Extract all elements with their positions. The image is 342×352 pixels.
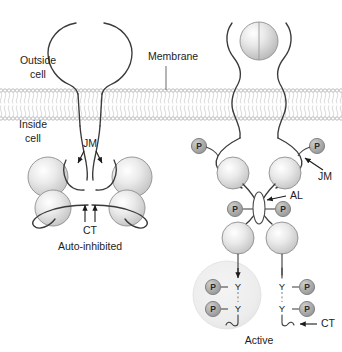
lipid-tail [220,92,222,103]
panel-active: P P [191,22,335,346]
lipid-head-group [39,89,42,92]
lipid-head-group [271,117,274,120]
lipid-tail [244,92,246,103]
lipid-head-group [87,117,90,120]
membrane-inner-leaflet [0,106,342,121]
lipid-tail [104,92,106,103]
lipid-head-group [203,89,206,92]
lipid-tail [228,92,230,103]
lipid-head-group [255,89,258,92]
lipid-head-group [227,117,230,120]
lipid-head-group [3,117,6,120]
lipid-tail [188,92,190,103]
lipid-tail [28,106,30,117]
lipid-head-group [275,117,278,120]
annotation-jm-right: JM [305,158,332,182]
lipid-tail [272,106,274,117]
lipid-tail [308,106,310,117]
lipid-tail [144,92,146,103]
lipid-head-group [179,117,182,120]
phosphate-glyph: P [196,141,202,151]
lipid-tail [332,106,334,117]
lipid-tail [0,106,2,117]
lipid-head-group [207,89,210,92]
lipid-tail [28,92,30,103]
lipid-head-group [23,89,26,92]
lipid-tail [312,106,314,117]
lipid-head-group [259,89,262,92]
lipid-head-group [207,117,210,120]
lipid-tail [116,92,118,103]
lipid-tail [224,106,226,117]
annotation-ct-left: CT [83,205,98,236]
lipid-head-group [263,117,266,120]
lipid-tail [316,92,318,103]
lipid-head-group [247,89,250,92]
lipid-head-group [183,89,186,92]
lipid-head-group [59,117,62,120]
lipid-tail [184,106,186,117]
lipid-head-group [287,89,290,92]
ectodomain-unliganded [48,23,132,94]
lipid-tail [248,92,250,103]
lipid-head-group [155,117,158,120]
lipid-tail [124,106,126,117]
tyrosine-glyph: Y [235,281,242,292]
lipid-head-group [11,117,14,120]
lipid-head-group [239,89,242,92]
lipid-head-group [147,117,150,120]
lipid-tail [328,106,330,117]
lipid-tail [48,106,50,117]
lipid-tail [192,92,194,103]
kinase-lower-lobe-left [222,222,254,254]
lipid-head-group [163,117,166,120]
lipid-head-group [219,89,222,92]
kinase-upper-lobe-left [217,157,249,189]
lipid-tail [64,92,66,103]
phosphate-al-left: P [227,201,253,216]
lipid-head-group [139,89,142,92]
lipid-head-group [11,89,14,92]
lipid-head-group [323,89,326,92]
lipid-tail [320,106,322,117]
lipid-tail [52,92,54,103]
lipid-head-group [299,89,302,92]
activation-loop [253,192,265,224]
jm-arrow-left-b [96,151,102,163]
lipid-tail [148,92,150,103]
tyrosine-glyph: Y [279,281,286,292]
lipid-head-group [271,89,274,92]
ct-label-left: CT [83,224,98,236]
phosphate-glyph: P [210,282,216,292]
lipid-head-group [295,117,298,120]
lipid-head-group [107,89,110,92]
lipid-head-group [243,117,246,120]
lipid-tail [256,106,258,117]
lipid-tail [248,106,250,117]
kinase-domain-left-monomer [28,157,71,226]
lipid-tail [336,92,338,103]
lipid-tail [20,106,22,117]
lipid-head-group [83,117,86,120]
lipid-head-group [151,117,154,120]
lipid-head-group [175,89,178,92]
lipid-head-group [155,89,158,92]
lipid-tail [144,106,146,117]
lipid-tail [156,106,158,117]
lipid-tail [60,106,62,117]
lipid-tail [96,106,98,117]
lipid-head-group [323,117,326,120]
lipid-tail [4,106,6,117]
lipid-tail [164,92,166,103]
lipid-tail [220,106,222,117]
lipid-tail [32,92,34,103]
lipid-tail [172,106,174,117]
jm-tail-left [64,160,117,190]
ligand-sphere [240,22,278,60]
lipid-head-group [119,89,122,92]
lipid-tail [112,92,114,103]
phosphate-glyph: P [314,141,320,151]
kinase-lower-lobe-right [266,222,298,254]
lipid-tail [24,92,26,103]
lipid-tail [136,92,138,103]
